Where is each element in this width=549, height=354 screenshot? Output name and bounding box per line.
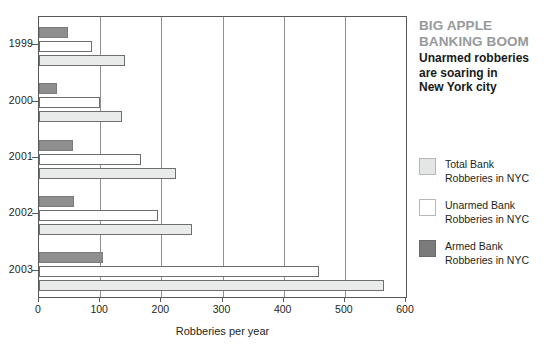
legend-item-total[interactable]: Total BankRobberies in NYC bbox=[419, 158, 545, 185]
bar-total-2001 bbox=[39, 168, 176, 179]
subhead-line-3: New York city bbox=[419, 80, 545, 95]
bar-total-2003 bbox=[39, 280, 384, 291]
x-tick-label-300: 300 bbox=[202, 303, 242, 315]
x-tick-label-600: 600 bbox=[385, 303, 425, 315]
y-tick-label-text: 2000 bbox=[9, 94, 38, 106]
legend-label-armed: Armed BankRobberies in NYC bbox=[445, 240, 529, 267]
bar-unarmed-2000 bbox=[39, 97, 100, 108]
y-tick-label-text: 2002 bbox=[9, 206, 38, 218]
bar-armed-1999 bbox=[39, 27, 68, 38]
legend-label-line-1: Armed Bank bbox=[445, 240, 529, 254]
bar-unarmed-2003 bbox=[39, 266, 319, 277]
bar-unarmed-1999 bbox=[39, 41, 92, 52]
bar-total-2002 bbox=[39, 224, 192, 235]
legend-label-line-1: Total Bank bbox=[445, 158, 529, 172]
headline-line-2: BANKING BOOM bbox=[419, 34, 545, 50]
gridline-200 bbox=[161, 17, 162, 297]
subhead-line-1: Unarmed robberies bbox=[419, 51, 545, 66]
y-tick-label-text: 2001 bbox=[9, 150, 38, 162]
y-tick-label-2003: 2003 bbox=[0, 263, 38, 275]
x-tick-mark-300 bbox=[222, 298, 223, 302]
y-tick-label-1999: 1999 bbox=[0, 37, 38, 49]
y-tick-label-2000: 2000 bbox=[0, 94, 38, 106]
legend-label-unarmed: Unarmed BankRobberies in NYC bbox=[445, 199, 529, 226]
bar-armed-2001 bbox=[39, 140, 73, 151]
bar-armed-2003 bbox=[39, 252, 103, 263]
x-tick-mark-100 bbox=[99, 298, 100, 302]
title-block: BIG APPLE BANKING BOOM Unarmed robberies… bbox=[419, 18, 545, 95]
subhead-line-2: are soaring in bbox=[419, 66, 545, 81]
headline-line-1: BIG APPLE bbox=[419, 18, 545, 34]
bar-unarmed-2002 bbox=[39, 210, 158, 221]
x-tick-label-500: 500 bbox=[324, 303, 364, 315]
legend-swatch-total bbox=[419, 158, 436, 175]
x-tick-mark-600 bbox=[405, 298, 406, 302]
legend-label-line-1: Unarmed Bank bbox=[445, 199, 529, 213]
legend-label-line-2: Robberies in NYC bbox=[445, 213, 529, 227]
gridline-500 bbox=[345, 17, 346, 297]
legend-label-total: Total BankRobberies in NYC bbox=[445, 158, 529, 185]
x-tick-mark-400 bbox=[283, 298, 284, 302]
legend-label-line-2: Robberies in NYC bbox=[445, 172, 529, 186]
chart-subhead: Unarmed robberies are soaring in New Yor… bbox=[419, 51, 545, 95]
x-tick-label-400: 400 bbox=[263, 303, 303, 315]
legend-swatch-armed bbox=[419, 240, 436, 257]
y-tick-label-text: 2003 bbox=[9, 263, 38, 275]
x-tick-label-100: 100 bbox=[79, 303, 119, 315]
y-tick-label-2001: 2001 bbox=[0, 150, 38, 162]
bar-chart: BIG APPLE BANKING BOOM Unarmed robberies… bbox=[0, 0, 549, 354]
bar-total-1999 bbox=[39, 55, 125, 66]
x-axis-title: Robberies per year bbox=[38, 325, 407, 337]
bar-total-2000 bbox=[39, 111, 122, 122]
y-tick-label-2002: 2002 bbox=[0, 206, 38, 218]
legend-item-armed[interactable]: Armed BankRobberies in NYC bbox=[419, 240, 545, 267]
bar-armed-2000 bbox=[39, 83, 57, 94]
chart-headline: BIG APPLE BANKING BOOM bbox=[419, 18, 545, 50]
x-tick-mark-200 bbox=[160, 298, 161, 302]
y-tick-label-text: 1999 bbox=[9, 37, 38, 49]
plot-area bbox=[38, 16, 407, 298]
x-tick-mark-0 bbox=[38, 298, 39, 302]
legend-item-unarmed[interactable]: Unarmed BankRobberies in NYC bbox=[419, 199, 545, 226]
x-tick-mark-500 bbox=[344, 298, 345, 302]
x-tick-label-0: 0 bbox=[18, 303, 58, 315]
bar-armed-2002 bbox=[39, 196, 74, 207]
x-tick-label-200: 200 bbox=[140, 303, 180, 315]
gridline-300 bbox=[223, 17, 224, 297]
gridline-400 bbox=[284, 17, 285, 297]
bar-unarmed-2001 bbox=[39, 154, 141, 165]
legend-label-line-2: Robberies in NYC bbox=[445, 254, 529, 268]
legend-swatch-unarmed bbox=[419, 199, 436, 216]
chart-legend: Total BankRobberies in NYCUnarmed BankRo… bbox=[419, 158, 545, 281]
